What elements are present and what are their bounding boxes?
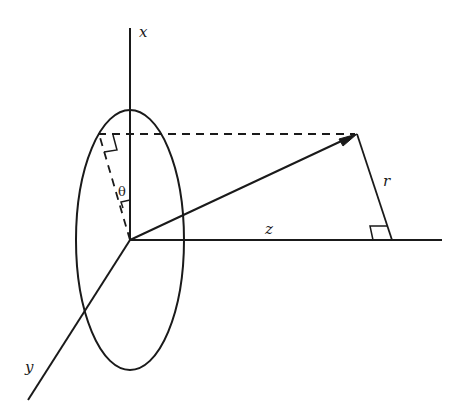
r-label: r: [383, 172, 391, 190]
position-vector: [130, 137, 350, 240]
x-axis-label: x: [139, 23, 148, 41]
theta-label: θ: [118, 184, 126, 199]
right-angle-marker-bottom: [370, 226, 387, 240]
cylindrical-coordinates-diagram: x y z r θ: [0, 0, 459, 420]
y-axis: [28, 240, 130, 400]
y-axis-label: y: [24, 358, 34, 376]
vector-arrowhead-icon: [339, 134, 357, 146]
z-axis-label: z: [264, 220, 273, 238]
theta-arc: [121, 200, 130, 208]
right-angle-marker-top: [104, 135, 117, 152]
